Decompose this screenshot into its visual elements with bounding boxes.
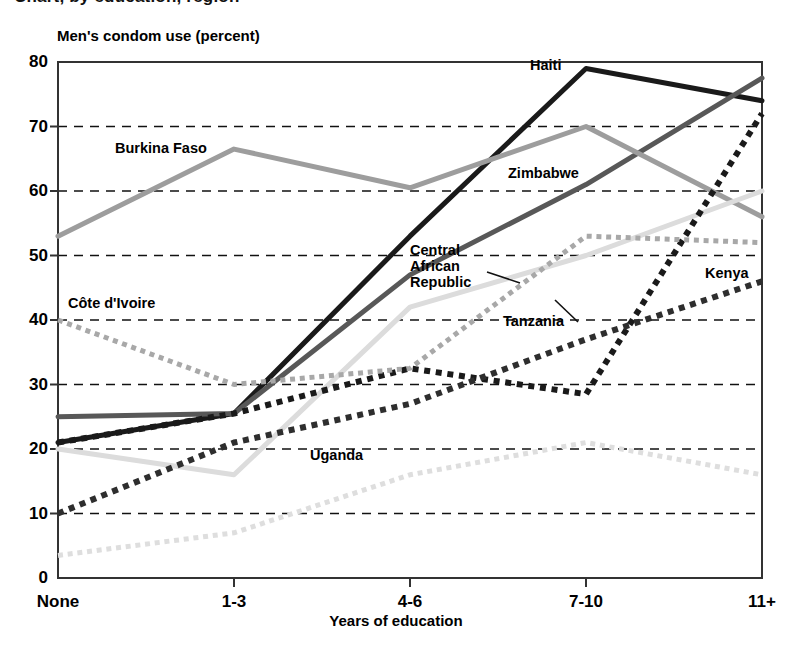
series-label-c-te-d-ivoire: Côte d'Ivoire (68, 295, 155, 311)
series-line-uganda (58, 443, 762, 556)
series-label-uganda: Uganda (310, 447, 363, 463)
plot-area (0, 0, 792, 653)
series-label-kenya: Kenya (705, 265, 749, 281)
clipped-page-heading: Chart, by education, region (14, 0, 239, 7)
y-tick-label: 30 (2, 375, 48, 395)
x-axis-title: Years of education (0, 612, 792, 629)
y-tick-label: 10 (2, 504, 48, 524)
x-tick-label: None (37, 592, 80, 612)
y-axis-title: Men's condom use (percent) (57, 27, 260, 44)
series-label-zimbabwe: Zimbabwe (508, 165, 579, 181)
series-label-tanzania: Tanzania (503, 313, 564, 329)
y-tick-label: 70 (2, 117, 48, 137)
chart-figure: Chart, by education, region Men's condom… (0, 0, 792, 653)
x-tick-label: 4-6 (398, 592, 423, 612)
y-tick-label: 80 (2, 52, 48, 72)
series-label-burkina-faso: Burkina Faso (115, 140, 207, 156)
x-tick-label: 1-3 (222, 592, 247, 612)
series-line-kenya (58, 281, 762, 513)
x-tick-label: 11+ (748, 592, 776, 612)
series-label-haiti: Haiti (530, 57, 561, 73)
y-tick-label: 50 (2, 246, 48, 266)
y-tick-label: 40 (2, 310, 48, 330)
series-label-central-african-republic: Central African Republic (410, 242, 496, 291)
y-tick-label: 20 (2, 439, 48, 459)
y-tick-label: 60 (2, 181, 48, 201)
x-tick-label: 7-10 (569, 592, 603, 612)
y-tick-label: 0 (2, 568, 48, 588)
